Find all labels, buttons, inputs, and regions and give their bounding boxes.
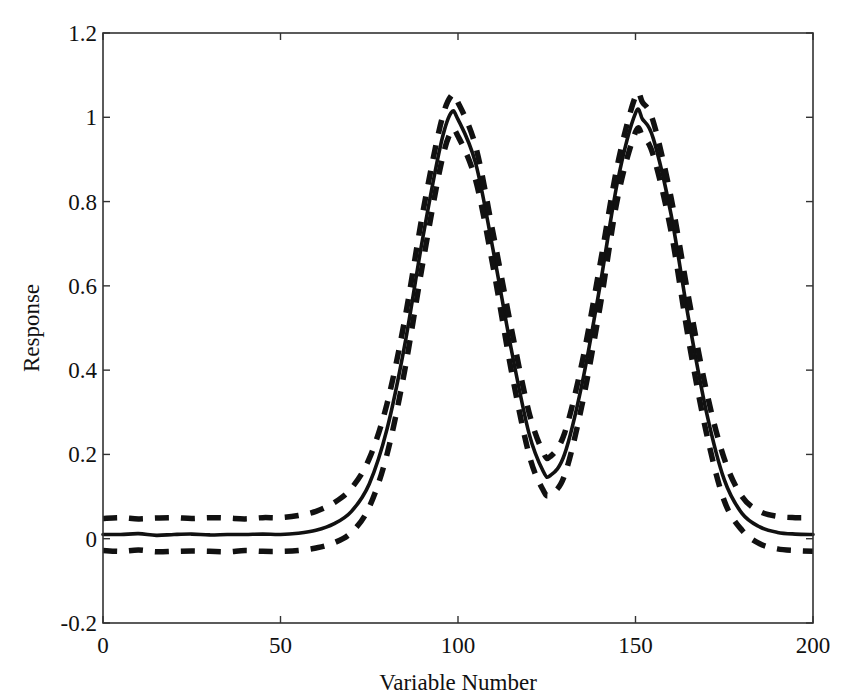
y-tick-label: 1.2 xyxy=(68,21,97,46)
y-tick-label: 1 xyxy=(86,105,98,130)
y-axis-label: Response xyxy=(19,284,44,372)
y-tick-label: 0.4 xyxy=(68,358,97,383)
x-tick-label: 100 xyxy=(441,633,476,658)
series-layer xyxy=(103,92,813,552)
line-chart: 050100150200-0.200.20.40.60.811.2 Variab… xyxy=(0,0,855,699)
y-tick-label: 0 xyxy=(86,527,98,552)
y-tick-label: -0.2 xyxy=(61,611,97,636)
x-tick-label: 150 xyxy=(618,633,653,658)
y-tick-label: 0.8 xyxy=(68,190,97,215)
x-tick-label: 0 xyxy=(97,633,109,658)
x-axis-label: Variable Number xyxy=(379,670,537,695)
y-tick-label: 0.6 xyxy=(68,274,97,299)
series-line-mean xyxy=(103,109,813,535)
series-line-upper-bound xyxy=(103,92,813,519)
x-tick-label: 200 xyxy=(796,633,831,658)
ticks-layer: 050100150200-0.200.20.40.60.811.2 xyxy=(61,21,831,658)
series-line-lower-bound xyxy=(103,128,813,552)
y-tick-label: 0.2 xyxy=(68,442,97,467)
x-tick-label: 50 xyxy=(269,633,292,658)
